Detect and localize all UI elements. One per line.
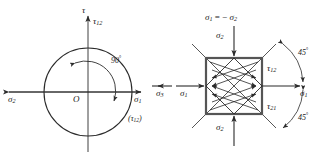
element-sigma1-right-label: σ1 [300,89,308,98]
mohr-axes [9,16,141,152]
element-sigma3-label: σ3 [156,89,164,98]
mohr-tau-axis-label: τ [82,6,85,15]
element-angle-45-lower-label: 45° [298,113,308,122]
element-stress-arrows [152,26,300,146]
figure-root: τ τ12 σ2 σ1 O (τ12) 90° σ1 = − σ2 σ2 σ2 … [0,0,320,164]
mohr-sigma1-label: σ1 [134,95,142,104]
mohr-angle-90-label: 90° [111,56,121,65]
element-tau12-label: τ12 [267,64,276,73]
element-sigma2-top-label: σ2 [216,31,224,40]
element-sigma1-left-label: σ1 [180,89,188,98]
mohr-top-point-label: τ12 [93,17,102,26]
element-principal-relation-label: σ1 = − σ2 [205,13,237,22]
element-angle-45-upper-label: 45° [298,48,308,57]
element-sigma2-bottom-label: σ2 [216,123,224,132]
mohr-tau12-paren-label: (τ12) [128,115,142,124]
mohr-sigma2-label: σ2 [8,95,16,104]
element-tau21-label: τ21 [267,102,276,111]
mohr-origin-label: O [73,95,80,104]
figure-canvas [0,0,320,164]
mohr-90-degree-arc [75,61,116,101]
